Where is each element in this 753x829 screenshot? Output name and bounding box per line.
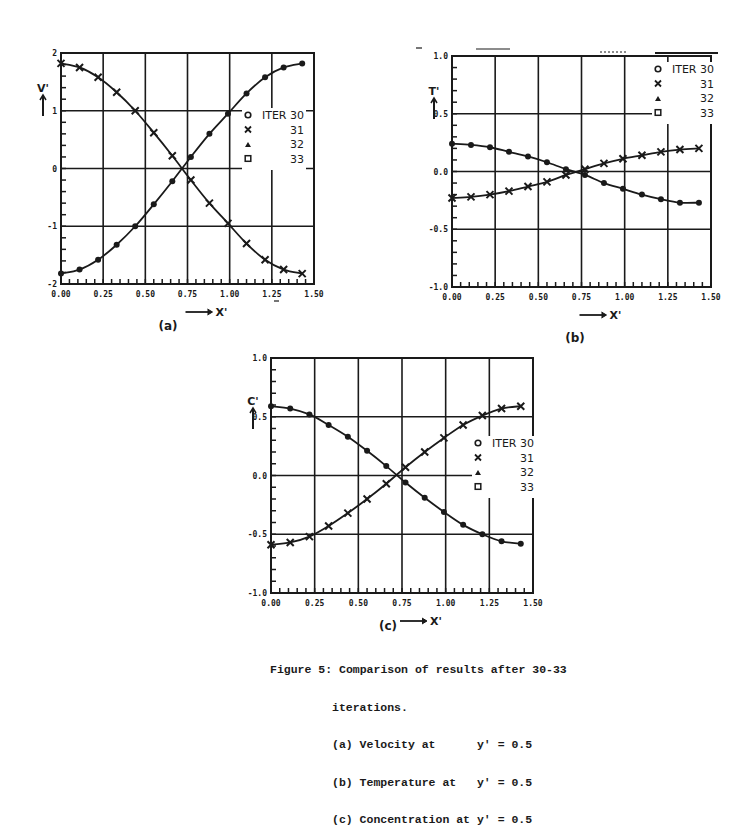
circle-marker-icon	[479, 531, 485, 537]
x-axis-arrowhead-icon	[208, 309, 213, 315]
y-tick-label: -0.5	[248, 530, 267, 539]
x-marker-icon	[206, 200, 213, 207]
circle-marker-icon	[77, 267, 83, 273]
x-axis-arrowhead-icon	[602, 312, 607, 318]
x-marker-icon	[187, 177, 194, 184]
legend: ITER 30313233	[242, 108, 306, 170]
circle-marker-icon	[487, 144, 493, 150]
x-tick-label: 0.50	[529, 293, 548, 302]
x-marker-icon	[364, 496, 371, 503]
caption-item-a: (a) Velocity at y' = 0.5	[270, 739, 567, 752]
circle-marker-icon	[281, 64, 287, 70]
circle-marker-icon	[383, 463, 389, 469]
legend-label: ITER 30	[672, 63, 714, 76]
circle-marker-icon	[696, 200, 702, 206]
x-axis-arrowhead-icon	[422, 618, 427, 624]
x-axis-label: X'	[216, 306, 228, 319]
circle-marker-icon	[563, 166, 569, 172]
y-tick-label: 0.0	[434, 168, 449, 177]
circle-marker-icon	[402, 480, 408, 486]
circle-marker-icon	[639, 192, 645, 198]
y-tick-label: 0	[52, 165, 57, 174]
x-tick-label: 0.75	[572, 293, 591, 302]
y-tick-label: 0.5	[434, 110, 449, 119]
legend-label: 32	[290, 138, 304, 151]
x-tick-label: 1.25	[262, 290, 281, 299]
y-axis-label: V'	[37, 82, 49, 95]
legend: ITER 30313233	[652, 62, 716, 124]
circle-marker-icon	[262, 74, 268, 80]
circle-marker-icon	[601, 180, 607, 186]
x-marker-icon	[262, 256, 269, 263]
x-marker-icon	[383, 480, 390, 487]
x-tick-label: 1.50	[701, 293, 720, 302]
legend-label: 31	[520, 452, 534, 465]
circle-marker-icon	[658, 196, 664, 202]
chart-panel-a: 0.000.250.500.751.001.251.50-2-1012V'X'(…	[37, 49, 324, 333]
legend-label: ITER 30	[492, 437, 534, 450]
x-tick-label: 0.00	[442, 293, 461, 302]
x-tick-label: 0.25	[94, 290, 113, 299]
x-tick-label: 0.00	[51, 290, 70, 299]
circle-marker-icon	[620, 186, 626, 192]
x-tick-label: 1.25	[480, 599, 499, 608]
x-marker-icon	[113, 89, 120, 96]
y-tick-label: -1	[47, 222, 57, 231]
panel-label: (a)	[158, 319, 177, 333]
y-tick-label: -1.0	[429, 283, 448, 292]
y-tick-label: -0.5	[429, 225, 448, 234]
y-axis-label: T'	[429, 85, 440, 98]
circle-marker-icon	[225, 111, 231, 117]
x-tick-label: 1.50	[304, 290, 323, 299]
circle-marker-icon	[268, 403, 274, 409]
legend-label: 33	[520, 481, 534, 494]
x-marker-icon	[460, 421, 467, 428]
x-tick-label: 1.00	[220, 290, 239, 299]
circle-marker-icon	[169, 178, 175, 184]
y-tick-label: -1.0	[248, 589, 267, 598]
circle-marker-icon	[506, 149, 512, 155]
circle-marker-icon	[468, 142, 474, 148]
y-tick-label: 0.0	[253, 472, 268, 481]
figure-caption: Figure 5: Comparison of results after 30…	[270, 639, 567, 829]
x-marker-icon	[402, 464, 409, 471]
x-tick-label: 0.75	[178, 290, 197, 299]
circle-marker-icon	[326, 422, 332, 428]
panel-label: (b)	[565, 331, 585, 345]
x-tick-label: 0.75	[392, 599, 411, 608]
y-tick-label: 2	[52, 49, 57, 58]
x-tick-label: 0.25	[486, 293, 505, 302]
x-marker-icon	[344, 510, 351, 517]
circle-marker-icon	[499, 538, 505, 544]
circle-marker-icon	[525, 153, 531, 159]
legend-label: 31	[290, 124, 304, 137]
legend-label: 32	[700, 92, 714, 105]
caption-item-b: (b) Temperature at y' = 0.5	[270, 777, 567, 790]
circle-marker-icon	[677, 200, 683, 206]
circle-marker-icon	[449, 141, 455, 147]
circle-marker-icon	[244, 90, 250, 96]
x-tick-label: 1.50	[523, 599, 542, 608]
x-tick-label: 0.00	[261, 599, 280, 608]
x-tick-label: 1.25	[658, 293, 677, 302]
circle-marker-icon	[287, 406, 293, 412]
y-tick-label: 1.0	[434, 52, 449, 61]
chart-panel-b: 0.000.250.500.751.001.251.50-1.0-0.50.00…	[429, 52, 721, 345]
legend-label: ITER 30	[262, 109, 304, 122]
legend-label: 32	[520, 466, 534, 479]
x-tick-label: 0.50	[349, 599, 368, 608]
panel-label: (c)	[379, 619, 397, 633]
circle-marker-icon	[544, 159, 550, 165]
legend: ITER 30313233	[472, 436, 536, 498]
chart-panel-c: 0.000.250.500.751.001.251.50-1.0-0.50.00…	[247, 354, 543, 633]
x-tick-label: 0.50	[136, 290, 155, 299]
circle-marker-icon	[306, 411, 312, 417]
series-markers-1	[449, 145, 703, 202]
x-tick-label: 0.25	[305, 599, 324, 608]
circle-marker-icon	[114, 242, 120, 248]
series-line-1	[452, 148, 699, 198]
y-tick-label: 1.0	[253, 354, 268, 363]
circle-marker-icon	[132, 223, 138, 229]
caption-title: Figure 5: Comparison of results after 30…	[270, 664, 567, 677]
legend-label: 33	[700, 107, 714, 120]
